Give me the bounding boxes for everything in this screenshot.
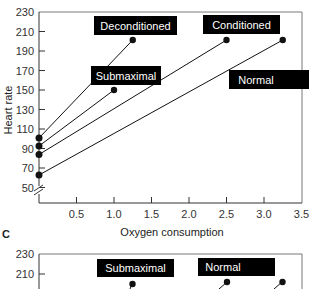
y-axis-title: Heart rate — [2, 86, 14, 135]
svg-text:Submaximal: Submaximal — [96, 70, 157, 82]
x-tick-label: 1.5 — [144, 208, 159, 220]
x-tick-labels: 0.5 1.0 1.5 2.0 2.5 3.0 3.5 — [69, 208, 309, 220]
panel-letter: C — [2, 228, 10, 240]
label-deconditioned: Deconditioned — [94, 16, 177, 35]
label-submaximal: Submaximal — [91, 66, 161, 85]
y-tick-label: 230 — [16, 248, 34, 260]
label-normal: Normal — [229, 70, 309, 89]
y-tick-label: 110 — [16, 123, 34, 135]
point-normal-start — [36, 172, 43, 179]
label-conditioned: Conditioned — [203, 15, 280, 34]
point-submaximal-end — [129, 281, 135, 287]
point-deconditioned-end — [130, 37, 136, 43]
series-lines — [130, 282, 282, 289]
svg-text:Submaximal: Submaximal — [105, 262, 166, 274]
line-conditioned — [39, 40, 227, 155]
y-tick-labels: 230 210 190 170 150 130 110 90 70 50 — [16, 6, 34, 194]
point-normal-end — [279, 279, 285, 285]
y-tick-label: 230 — [16, 6, 34, 18]
svg-text:Normal: Normal — [238, 74, 273, 86]
series-points — [129, 279, 285, 287]
label-normal: Normal — [198, 258, 275, 276]
y-tick-label: 170 — [16, 65, 34, 77]
line-deconditioned — [39, 40, 133, 138]
x-tick-label: 2.5 — [219, 208, 234, 220]
x-tick-label: 2.0 — [181, 208, 196, 220]
line-normal — [39, 40, 283, 175]
point-deconditioned-start — [36, 135, 43, 142]
x-axis-title: Oxygen consumption — [120, 226, 223, 238]
y-tick-label: 210 — [16, 268, 34, 280]
y-tick-label: 210 — [16, 26, 34, 38]
y-tick-label: 130 — [16, 104, 34, 116]
point-submaximal-start — [36, 143, 43, 150]
y-ticks — [39, 32, 45, 188]
svg-text:Conditioned: Conditioned — [212, 19, 271, 31]
y-tick-label: 50 — [22, 182, 34, 194]
x-ticks — [77, 197, 265, 203]
x-tick-label: 3.0 — [256, 208, 271, 220]
point-normal-end — [280, 37, 286, 43]
svg-text:Normal: Normal — [205, 261, 240, 273]
y-tick-label: 70 — [22, 162, 34, 174]
y-tick-label: 90 — [22, 143, 34, 155]
svg-text:Deconditioned: Deconditioned — [100, 20, 170, 32]
y-tick-label: 190 — [16, 45, 34, 57]
point-conditioned-end — [223, 37, 229, 43]
y-tick-label: 150 — [16, 84, 34, 96]
series-lines — [39, 40, 283, 175]
label-submaximal: Submaximal — [97, 259, 174, 277]
figure: 230 210 190 170 150 130 110 90 70 50 0.5… — [0, 0, 313, 289]
x-tick-label: 3.5 — [294, 208, 309, 220]
point-submaximal-end — [111, 87, 117, 93]
x-tick-label: 1.0 — [106, 208, 121, 220]
chart-1: 230 210 190 170 150 130 110 90 70 50 0.5… — [2, 6, 309, 238]
x-tick-label: 0.5 — [69, 208, 84, 220]
point-end — [224, 279, 230, 285]
point-conditioned-start — [36, 151, 43, 158]
